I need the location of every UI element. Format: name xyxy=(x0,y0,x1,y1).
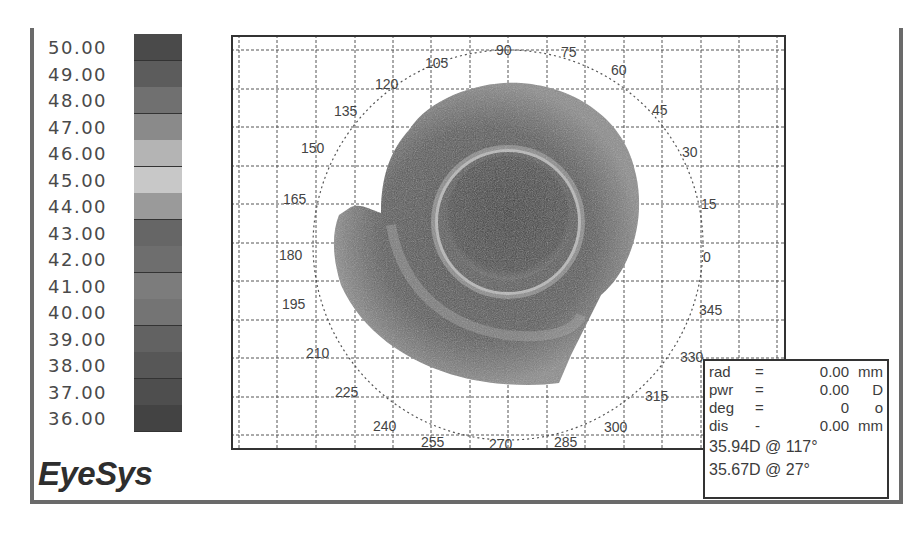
angle-label: 330 xyxy=(680,349,704,365)
legend-swatch xyxy=(134,167,182,194)
legend-label: 48.00 xyxy=(48,90,107,111)
readout-eq: = xyxy=(755,399,764,417)
readout-key: rad xyxy=(709,363,731,381)
legend-item: 37.00 xyxy=(46,379,186,405)
legend-item: 42.00 xyxy=(46,246,186,272)
legend-swatch xyxy=(134,193,182,220)
readout-row-rad: rad = 0.00 mm xyxy=(709,363,883,381)
legend-label: 42.00 xyxy=(48,249,107,270)
angle-label: 105 xyxy=(425,55,449,71)
angle-label: 90 xyxy=(496,42,512,58)
angle-label: 315 xyxy=(645,388,669,404)
angle-label: 195 xyxy=(282,296,306,312)
topography-surface xyxy=(334,83,639,385)
angle-label: 150 xyxy=(301,140,325,156)
legend-item: 48.00 xyxy=(46,87,186,113)
angle-label: 345 xyxy=(699,302,723,318)
angle-label: 270 xyxy=(489,436,513,450)
legend-swatch xyxy=(134,246,182,273)
readout-eq: - xyxy=(755,417,760,435)
angle-label: 0 xyxy=(703,249,711,265)
angle-label: 240 xyxy=(373,418,397,434)
readout-unit: o xyxy=(875,399,883,417)
readout-unit: D xyxy=(872,381,883,399)
legend-item: 47.00 xyxy=(46,114,186,140)
readout-eq: = xyxy=(755,363,764,381)
legend-label: 46.00 xyxy=(48,143,107,164)
legend-swatch xyxy=(134,140,182,167)
angle-label: 165 xyxy=(283,191,307,207)
legend-swatch xyxy=(134,405,182,432)
legend-item: 49.00 xyxy=(46,61,186,87)
legend-swatch xyxy=(134,34,182,61)
legend-label: 44.00 xyxy=(48,196,107,217)
legend-item: 36.00 xyxy=(46,405,186,431)
legend-label: 45.00 xyxy=(48,170,107,191)
legend-label: 36.00 xyxy=(48,408,107,429)
legend-swatch xyxy=(134,352,182,379)
legend-label: 40.00 xyxy=(48,302,107,323)
readout-key: dis xyxy=(709,417,728,435)
angle-label: 30 xyxy=(682,144,698,160)
angle-label: 210 xyxy=(306,345,330,361)
k-reading-flat: 35.67D @ 27° xyxy=(709,458,883,481)
legend-swatch xyxy=(134,114,182,141)
legend-label: 50.00 xyxy=(48,37,107,58)
legend-label: 37.00 xyxy=(48,382,107,403)
k-reading-steep: 35.94D @ 117° xyxy=(709,435,883,458)
readout-value: 0.00 xyxy=(820,381,849,399)
legend-swatch xyxy=(134,220,182,247)
legend-label: 38.00 xyxy=(48,355,107,376)
angle-label: 225 xyxy=(335,384,359,400)
angle-label: 120 xyxy=(375,76,399,92)
legend-item: 50.00 xyxy=(46,34,186,60)
legend-label: 43.00 xyxy=(48,223,107,244)
readout-row-deg: deg = 0 o xyxy=(709,399,883,417)
legend-swatch xyxy=(134,87,182,114)
legend-swatch xyxy=(134,273,182,300)
readout-value: 0.00 xyxy=(820,417,849,435)
readout-key: pwr xyxy=(709,381,733,399)
readout-value: 0.00 xyxy=(820,363,849,381)
legend-item: 43.00 xyxy=(46,220,186,246)
angle-label: 135 xyxy=(334,103,358,119)
legend-label: 47.00 xyxy=(48,117,107,138)
readout-row-dis: dis - 0.00 mm xyxy=(709,417,883,435)
readout-eq: = xyxy=(755,381,764,399)
legend-swatch xyxy=(134,61,182,88)
angle-label: 15 xyxy=(701,196,717,212)
readout-unit: mm xyxy=(858,417,883,435)
legend-swatch xyxy=(134,299,182,326)
angle-label: 285 xyxy=(554,434,578,450)
legend-swatch xyxy=(134,379,182,406)
legend-label: 49.00 xyxy=(48,64,107,85)
brand-logo: EyeSys xyxy=(38,455,152,493)
angle-label: 180 xyxy=(279,247,303,263)
cursor-readout-panel: rad = 0.00 mm pwr = 0.00 D deg = 0 o dis… xyxy=(703,359,889,499)
readout-value: 0 xyxy=(841,399,849,417)
angle-label: 300 xyxy=(604,419,628,435)
legend-item: 38.00 xyxy=(46,352,186,378)
angle-label: 60 xyxy=(611,62,627,78)
legend-item: 44.00 xyxy=(46,193,186,219)
legend-label: 41.00 xyxy=(48,276,107,297)
legend-item: 40.00 xyxy=(46,299,186,325)
angle-label: 75 xyxy=(561,44,577,60)
legend-item: 46.00 xyxy=(46,140,186,166)
legend-item: 45.00 xyxy=(46,167,186,193)
readout-key: deg xyxy=(709,399,734,417)
legend-label: 39.00 xyxy=(48,329,107,350)
legend-swatch xyxy=(134,326,182,353)
angle-label: 45 xyxy=(652,102,668,118)
legend-item: 41.00 xyxy=(46,273,186,299)
angle-label: 255 xyxy=(421,434,445,450)
readout-row-pwr: pwr = 0.00 D xyxy=(709,381,883,399)
readout-unit: mm xyxy=(858,363,883,381)
legend-item: 39.00 xyxy=(46,326,186,352)
